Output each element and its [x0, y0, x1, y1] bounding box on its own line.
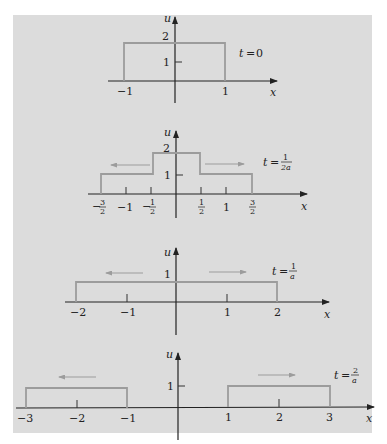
- u-tick-label-2: 2: [162, 30, 169, 43]
- x-tick-label-1: 1: [222, 85, 229, 98]
- svg-text:=: =: [270, 156, 279, 169]
- wave-evolution-figure: u 2 1 −1 1 x t = 0 u 2 1 − 3 2 −1: [0, 0, 387, 444]
- x-tick-label-neg2: −2: [70, 306, 86, 319]
- svg-text:=: =: [341, 369, 350, 382]
- svg-text:1: 1: [291, 262, 296, 271]
- x-tick-label-3: 3: [326, 411, 333, 424]
- svg-text:2: 2: [100, 207, 105, 216]
- svg-text:t: t: [334, 369, 339, 382]
- panel-t-1-over-a: u 1 −2 −1 1 2 x t = 1 a: [65, 246, 331, 335]
- svg-text:2a: 2a: [280, 163, 291, 172]
- x-tick-label-neg1: −1: [117, 201, 133, 214]
- x-axis-label: x: [301, 200, 308, 213]
- svg-text:=: =: [279, 265, 288, 278]
- x-tick-label-neg3half: − 3 2: [92, 198, 106, 216]
- svg-text:2: 2: [199, 207, 204, 216]
- x-tick-label-neg1: −1: [120, 306, 136, 319]
- svg-text:2: 2: [150, 207, 155, 216]
- svg-text:2: 2: [353, 366, 358, 375]
- x-tick-label-2: 2: [276, 411, 283, 424]
- time-label: t = 1 a: [272, 262, 297, 281]
- svg-text:t: t: [239, 47, 244, 60]
- time-label: t = 1 2a: [263, 153, 292, 172]
- svg-text:t: t: [263, 156, 268, 169]
- x-tick-label-neg2: −2: [69, 412, 85, 425]
- x-tick-label-1: 1: [225, 411, 232, 424]
- svg-text:2: 2: [250, 207, 255, 216]
- x-tick-label-neg1: −1: [120, 412, 136, 425]
- u-axis-label: u: [164, 12, 171, 25]
- panel-t-half-over-a: u 2 1 − 3 2 −1 − 1 2 1 2 1 3 2 x t: [88, 126, 308, 218]
- x-tick-label-3half: 3 2: [249, 198, 256, 216]
- x-axis: [16, 407, 374, 408]
- u-axis-label: u: [166, 348, 173, 361]
- svg-text:3: 3: [250, 198, 255, 207]
- x-axis-label: x: [324, 308, 331, 321]
- x-tick-label-half: 1 2: [198, 198, 205, 216]
- u-tick-label-1: 1: [163, 56, 170, 69]
- svg-text:0: 0: [256, 47, 263, 60]
- x-axis-label: x: [270, 86, 277, 99]
- svg-text:a: a: [352, 376, 357, 385]
- svg-text:1: 1: [283, 153, 288, 162]
- u-axis-label: u: [164, 126, 171, 139]
- svg-text:=: =: [246, 47, 255, 60]
- x-tick-label-neg-half: − 1 2: [142, 198, 156, 216]
- panel-t-2-over-a: u 1 −3 −2 −1 1 2 3 x t = 2 a: [16, 348, 374, 440]
- svg-text:1: 1: [199, 198, 204, 207]
- x-tick-label-1: 1: [223, 201, 230, 214]
- x-tick-label-1: 1: [224, 306, 231, 319]
- panel-t0: u 2 1 −1 1 x t = 0: [108, 12, 277, 103]
- u-axis-label: u: [164, 246, 171, 259]
- x-tick-label-neg3: −3: [17, 412, 33, 425]
- time-label: t = 2 a: [334, 366, 359, 385]
- svg-text:a: a: [290, 272, 295, 281]
- time-label: t = 0: [239, 47, 263, 60]
- u-tick-label-2: 2: [163, 142, 170, 155]
- x-tick-label-2: 2: [274, 306, 281, 319]
- svg-text:3: 3: [100, 198, 105, 207]
- u-tick-label-1: 1: [164, 169, 171, 182]
- svg-text:1: 1: [150, 198, 155, 207]
- x-axis-label: x: [366, 412, 373, 425]
- svg-text:t: t: [272, 265, 277, 278]
- u-tick-label-1: 1: [164, 268, 171, 281]
- u-tick-label-1: 1: [167, 380, 174, 393]
- x-tick-label-neg1: −1: [117, 85, 133, 98]
